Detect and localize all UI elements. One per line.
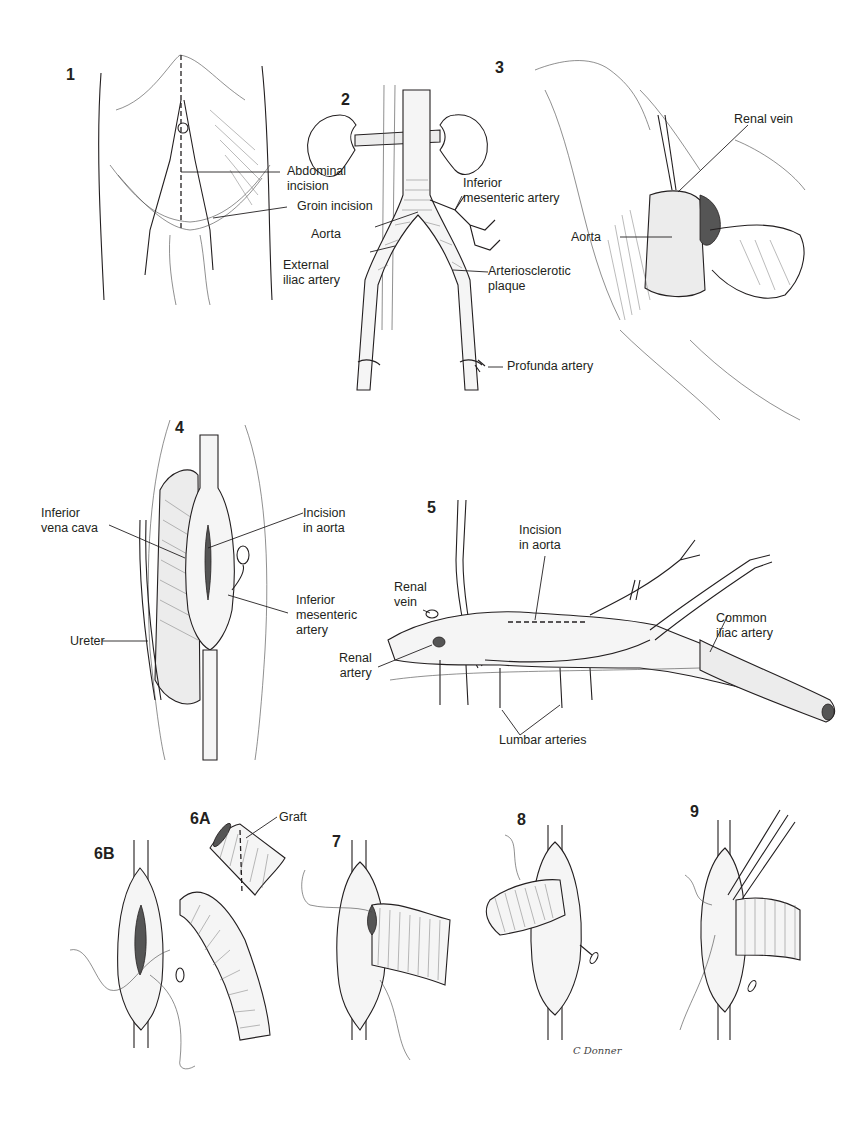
label-line: artery: [339, 666, 372, 681]
label-line: artery: [296, 623, 357, 638]
label-lumbar-arteries: Lumbar arteries: [499, 733, 587, 748]
panel-number-5: 5: [427, 499, 436, 517]
label-renal-vein-p3: Renal vein: [734, 112, 793, 127]
panel-8-anastomosis-drawing: [486, 825, 599, 1040]
label-line: plaque: [488, 279, 571, 294]
panel-number-6a: 6A: [190, 810, 210, 828]
label-inferior-mesenteric-artery-p4: Inferior mesenteric artery: [296, 593, 357, 638]
illustration-drawings: [0, 0, 847, 1121]
label-line: Common: [716, 611, 773, 626]
label-line: Inferior: [296, 593, 357, 608]
panel-6a-graft-drawing: [210, 817, 285, 895]
panel-4-aorta-incision-drawing: [102, 420, 303, 760]
label-common-iliac-artery: Common iliac artery: [716, 611, 773, 641]
label-line: vena cava: [41, 521, 98, 536]
label-external-iliac-artery: External iliac artery: [283, 258, 340, 288]
panel-7-anastomosis-drawing: [302, 840, 450, 1060]
label-line: Abdominal: [287, 164, 346, 179]
label-renal-vein-p5: Renal vein: [394, 580, 427, 610]
panel-number-6b: 6B: [94, 845, 114, 863]
label-incision-in-aorta-p5: Incision in aorta: [519, 523, 561, 553]
panel-number-9: 9: [690, 803, 699, 821]
label-groin-incision: Groin incision: [297, 199, 373, 214]
label-arteriosclerotic-plaque: Arteriosclerotic plaque: [488, 264, 571, 294]
label-aorta-p2: Aorta: [311, 227, 341, 242]
label-line: in aorta: [519, 538, 561, 553]
label-ureter: Ureter: [70, 634, 105, 649]
label-line: Inferior: [463, 176, 560, 191]
label-renal-artery: Renal artery: [339, 651, 372, 681]
label-line: Renal: [394, 580, 427, 595]
label-line: in aorta: [303, 521, 345, 536]
panel-1-torso-drawing: [99, 55, 287, 305]
panel-number-7: 7: [332, 833, 341, 851]
panel-number-1: 1: [66, 66, 75, 84]
label-profunda-artery: Profunda artery: [507, 359, 593, 374]
label-line: Incision: [303, 506, 345, 521]
label-abdominal-incision: Abdominal incision: [287, 164, 346, 194]
panel-number-3: 3: [495, 59, 504, 77]
panel-number-4: 4: [175, 419, 184, 437]
panel-number-2: 2: [341, 91, 350, 109]
label-line: Incision: [519, 523, 561, 538]
label-incision-in-aorta-p4: Incision in aorta: [303, 506, 345, 536]
label-inferior-mesenteric-artery: Inferior mesenteric artery: [463, 176, 560, 206]
label-line: Arteriosclerotic: [488, 264, 571, 279]
panel-9-anastomosis-drawing: [680, 810, 800, 1040]
artist-signature: C Donner: [573, 1045, 621, 1056]
label-line: incision: [287, 179, 346, 194]
label-line: iliac artery: [716, 626, 773, 641]
label-line: External: [283, 258, 340, 273]
label-line: iliac artery: [283, 273, 340, 288]
label-line: Renal: [339, 651, 372, 666]
label-line: Inferior: [41, 506, 98, 521]
label-inferior-vena-cava: Inferior vena cava: [41, 506, 98, 536]
panel-number-8: 8: [517, 811, 526, 829]
label-graft: Graft: [279, 810, 307, 825]
label-line: mesenteric: [296, 608, 357, 623]
label-line: mesenteric artery: [463, 191, 560, 206]
label-aorta-p3: Aorta: [571, 230, 601, 245]
illustration-plate: 1 2 3 4 5 6A 6B 7 8 9 Abdominal incision…: [0, 0, 847, 1121]
label-line: vein: [394, 595, 427, 610]
